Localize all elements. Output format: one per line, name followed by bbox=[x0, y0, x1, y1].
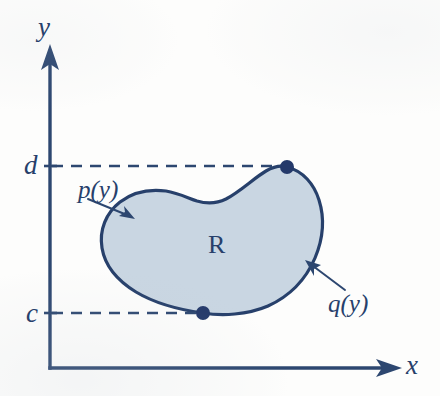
region-label: R bbox=[208, 230, 225, 260]
diagram-canvas bbox=[0, 0, 440, 396]
y-tick-label-c: c bbox=[26, 298, 38, 329]
bottom-tangent-point bbox=[196, 306, 210, 320]
q-label-pointer-line bbox=[313, 266, 345, 290]
right-boundary-label: q(y) bbox=[328, 290, 368, 318]
y-axis-label: y bbox=[38, 12, 50, 43]
top-tangent-point bbox=[280, 160, 294, 174]
left-boundary-label: p(y) bbox=[78, 176, 118, 204]
y-tick-label-d: d bbox=[24, 150, 38, 181]
x-axis-label: x bbox=[406, 350, 418, 381]
figure-container: y x d c p(y) q(y) R bbox=[0, 0, 440, 396]
